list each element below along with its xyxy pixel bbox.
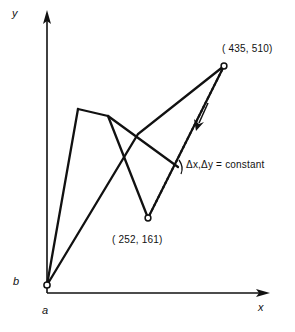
direction-arrow-group — [194, 103, 208, 131]
delta-leader-group — [179, 160, 182, 174]
polyline-group — [47, 66, 224, 285]
dotted-edge-group — [148, 66, 224, 218]
x-axis-label: x — [258, 302, 264, 313]
marker-apex — [221, 63, 227, 69]
y-axis-label: y — [12, 8, 18, 19]
marker-origin — [44, 282, 50, 288]
edge-apex-to-origin — [47, 66, 224, 285]
delta-constant-annotation: Δx,Δy = constant — [186, 160, 265, 170]
delta-leader-tick — [179, 160, 182, 174]
edge-peak-left-to-peak-mid — [78, 109, 108, 116]
vertex-markers-group — [44, 63, 227, 288]
x-origin-tick-label: a — [42, 305, 48, 316]
y-origin-tick-label: b — [13, 276, 19, 287]
valley-point-label: ( 252, 161) — [112, 235, 163, 245]
direction-arrow-head — [194, 119, 204, 131]
marker-valley — [145, 215, 151, 221]
figure-container: y x b a ( 435, 510) ( 252, 161) Δx,Δy = … — [0, 0, 295, 332]
dotted-edge-line — [148, 66, 224, 218]
apex-point-label: ( 435, 510) — [222, 44, 273, 54]
